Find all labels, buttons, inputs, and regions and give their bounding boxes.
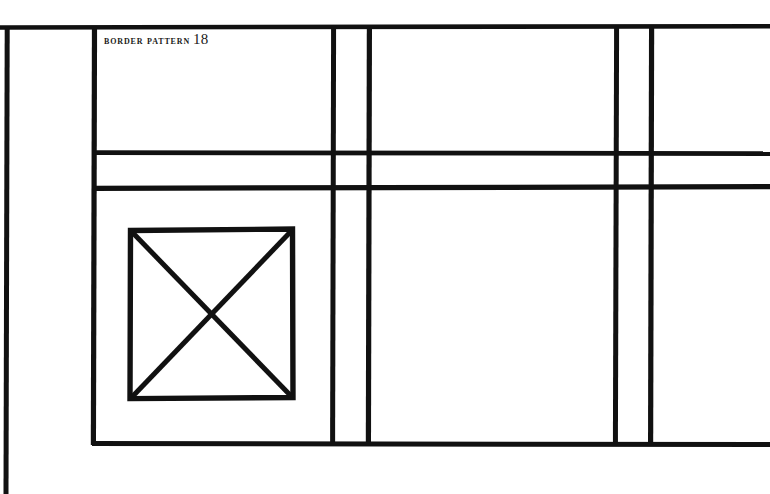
border-pattern-plate: Border Pattern18 — [0, 0, 770, 494]
outer-right-inner-rule-line — [615, 27, 616, 445]
plate-caption: Border Pattern18 — [104, 31, 208, 47]
bottom-rule-line — [92, 443, 770, 444]
mid-right-rule-line — [368, 27, 369, 445]
plate-caption-words: Border Pattern — [104, 34, 190, 46]
lower-band-rule-line — [93, 187, 770, 189]
crossed-square-motif — [130, 229, 293, 399]
mid-left-rule-line — [333, 27, 334, 445]
border-pattern-drawing — [0, 0, 770, 494]
outer-right-rule-line — [651, 27, 652, 445]
inner-left-rule-line — [93, 27, 94, 445]
plate-caption-number: 18 — [193, 31, 208, 47]
upper-band-rule-line — [93, 153, 770, 154]
outer-left-rule-line — [6, 27, 7, 494]
top-rule-line — [0, 26, 770, 27]
